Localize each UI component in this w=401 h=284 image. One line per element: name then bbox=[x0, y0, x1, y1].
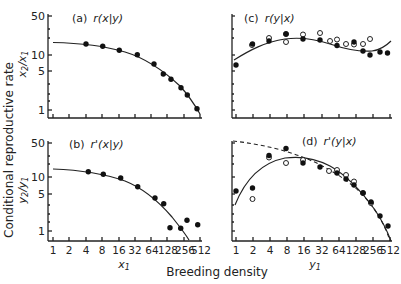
svg-text:1: 1 bbox=[38, 225, 45, 238]
panel-c-title: (c)r(y|x) bbox=[244, 12, 294, 25]
svg-text:5: 5 bbox=[38, 188, 45, 201]
main-y-axis-label: Conditional reproductive rate bbox=[2, 62, 16, 238]
panel-b-x-tick-labels: 1 2 4 8 16 32 64 128 256 512 bbox=[50, 244, 211, 256]
panel-a: 50 10 5 1 (a)r(x|y) bbox=[31, 10, 202, 118]
svg-text:50: 50 bbox=[31, 137, 45, 150]
panel-b-y-label: y2/y1 bbox=[16, 177, 30, 205]
panel-b: 50 10 5 1 1 2 4 8 16 32 64 128 256 512 bbox=[31, 137, 211, 272]
svg-text:50: 50 bbox=[31, 10, 45, 23]
panel-c: (c)r(y|x) bbox=[232, 12, 392, 118]
svg-text:1: 1 bbox=[38, 104, 45, 117]
panel-d-title: (d)r'(y|x) bbox=[302, 135, 356, 148]
svg-text:32: 32 bbox=[315, 244, 328, 256]
svg-text:512: 512 bbox=[191, 244, 211, 256]
figure-canvas: Conditional reproductive rate Breeding d… bbox=[0, 0, 401, 284]
panel-d: 1 2 4 8 16 32 64 128 256 512 y1 (d)r'(y|… bbox=[232, 135, 400, 272]
panel-d-open-points bbox=[250, 155, 374, 206]
panel-d-x-tick-labels: 1 2 4 8 16 32 64 128 256 512 bbox=[233, 244, 400, 256]
panel-c-fitted-curve bbox=[234, 38, 391, 60]
svg-text:512: 512 bbox=[380, 244, 400, 256]
panel-a-fitted-curve bbox=[53, 43, 200, 115]
svg-text:5: 5 bbox=[38, 65, 45, 78]
panel-c-filled-points bbox=[233, 31, 390, 67]
svg-text:64: 64 bbox=[145, 244, 159, 256]
svg-text:10: 10 bbox=[31, 171, 45, 184]
panel-d-fitted-curve bbox=[235, 157, 391, 241]
svg-text:10: 10 bbox=[31, 49, 45, 62]
svg-text:32: 32 bbox=[128, 244, 141, 256]
panel-b-title: (b)r'(x|y) bbox=[69, 138, 123, 151]
svg-text:8: 8 bbox=[99, 244, 106, 256]
panel-d-x-label: y1 bbox=[308, 258, 321, 272]
main-x-axis-label: Breeding density bbox=[166, 265, 268, 279]
svg-text:2: 2 bbox=[66, 244, 73, 256]
panel-d-model-dashed-curve bbox=[233, 141, 390, 241]
panel-a-title: (a)r(x|y) bbox=[72, 12, 123, 25]
svg-text:1: 1 bbox=[50, 244, 57, 256]
svg-text:64: 64 bbox=[332, 244, 346, 256]
panel-d-filled-points bbox=[233, 146, 390, 229]
svg-text:16: 16 bbox=[112, 244, 126, 256]
panel-b-points bbox=[86, 169, 201, 231]
svg-text:4: 4 bbox=[83, 244, 90, 256]
panel-a-y-label: x2/x1 bbox=[16, 51, 30, 79]
svg-text:y2/y1: y2/y1 bbox=[16, 177, 30, 205]
panel-b-x-label: x1 bbox=[117, 258, 130, 272]
svg-text:4: 4 bbox=[267, 244, 274, 256]
svg-text:8: 8 bbox=[284, 244, 291, 256]
svg-text:x2/x1: x2/x1 bbox=[16, 51, 30, 79]
svg-text:16: 16 bbox=[297, 244, 311, 256]
panel-a-points bbox=[83, 41, 199, 111]
svg-text:1: 1 bbox=[233, 244, 240, 256]
svg-text:2: 2 bbox=[250, 244, 257, 256]
